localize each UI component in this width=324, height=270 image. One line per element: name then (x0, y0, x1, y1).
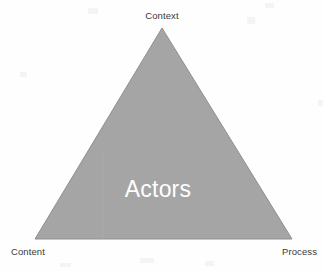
triangle-diagram (0, 0, 324, 270)
triangle-shape (35, 28, 292, 239)
vertex-label-content: Content (11, 246, 45, 257)
diagram-canvas: Context Content Process Actors (0, 0, 324, 270)
center-label-actors: Actors (0, 175, 320, 203)
vertex-label-process: Process (282, 246, 317, 257)
vertex-label-context: Context (0, 10, 324, 21)
